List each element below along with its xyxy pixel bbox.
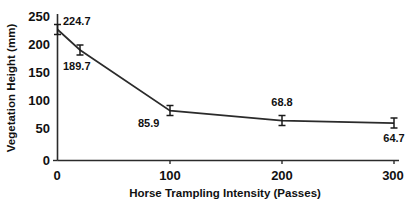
x-axis-tick-labels: 0 100 200 300: [53, 168, 403, 183]
y-tick-label-250: 250: [28, 9, 50, 24]
data-point-markers: [54, 25, 398, 129]
y-tick-label-150: 150: [28, 65, 50, 80]
data-series-line: [58, 30, 395, 124]
y-axis-tick-labels: 250 200 150 100 50 0: [28, 9, 50, 168]
x-axis-title: Horse Trampling Intensity (Passes): [129, 187, 321, 199]
data-point-marker-1: [77, 45, 84, 55]
x-tick-label-300: 300: [382, 168, 404, 183]
data-point-labels: 224.7 189.7 85.9 68.8 64.7: [63, 15, 405, 144]
data-label-224-7: 224.7: [63, 15, 91, 27]
data-label-85-9: 85.9: [138, 117, 159, 129]
data-label-64-7: 64.7: [383, 132, 404, 144]
data-label-68-8: 68.8: [271, 96, 292, 108]
y-tick-label-50: 50: [36, 121, 50, 136]
y-tick-label-200: 200: [28, 37, 50, 52]
chart-container: 250 200 150 100 50 0 0 100 200 300: [0, 0, 410, 205]
data-point-marker-0: [54, 25, 61, 35]
y-tick-label-100: 100: [28, 93, 50, 108]
line-chart: 250 200 150 100 50 0 0 100 200 300: [0, 0, 410, 205]
data-label-189-7: 189.7: [63, 60, 91, 72]
x-tick-label-0: 0: [53, 168, 60, 183]
x-tick-label-200: 200: [271, 168, 293, 183]
y-axis-title: Vegetation Height (mm): [5, 24, 17, 153]
x-tick-label-100: 100: [159, 168, 181, 183]
y-tick-label-0: 0: [43, 153, 50, 168]
